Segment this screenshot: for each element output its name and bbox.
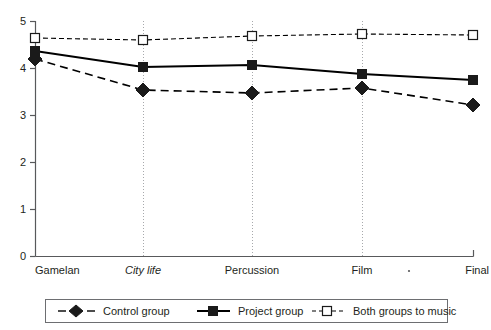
x-category-label-final: Final xyxy=(465,264,489,276)
datapoint-both-groups-percussion xyxy=(248,32,257,41)
datapoint-both-groups-final xyxy=(469,31,478,40)
legend-marker-filled-square xyxy=(209,307,218,316)
x-category-label-film: Film xyxy=(352,264,373,276)
x-category-labels: Gamelan City life Percussion Film Final xyxy=(35,264,489,276)
series-project-group xyxy=(31,47,478,85)
datapoint-project-percussion xyxy=(248,61,257,70)
y-tick-label-3: 3 xyxy=(20,109,26,121)
chart-legend: Control group Project group Both groups … xyxy=(46,300,457,323)
datapoint-both-groups-gamelan xyxy=(31,34,40,43)
datapoint-project-city-life xyxy=(139,63,148,72)
series-both-groups-to-music xyxy=(31,30,478,45)
legend-label-control-group: Control group xyxy=(103,305,170,317)
datapoint-control-city-life xyxy=(136,83,150,97)
x-category-label-city-life: City life xyxy=(125,264,161,276)
y-tick-label-4: 4 xyxy=(20,62,26,74)
y-tick-label-5: 5 xyxy=(20,15,26,27)
stray-speck xyxy=(408,270,410,272)
datapoint-both-groups-city-life xyxy=(139,36,148,45)
datapoint-control-final xyxy=(466,98,480,112)
datapoint-project-final xyxy=(469,76,478,85)
y-tick-label-1: 1 xyxy=(20,203,26,215)
legend-label-both-groups-to-music: Both groups to music xyxy=(353,305,457,317)
y-tick-label-2: 2 xyxy=(20,156,26,168)
datapoint-both-groups-film xyxy=(358,30,367,39)
gridlines xyxy=(144,21,363,256)
datapoint-control-film xyxy=(355,81,369,95)
legend-item-control-group: Control group xyxy=(58,305,170,317)
y-tick-label-0: 0 xyxy=(20,250,26,262)
legend-label-project-group: Project group xyxy=(238,305,303,317)
chart-canvas: 5 4 3 2 1 0 xyxy=(0,0,491,330)
datapoint-control-percussion xyxy=(245,86,259,100)
x-category-label-gamelan: Gamelan xyxy=(35,264,80,276)
x-axis xyxy=(36,250,474,257)
datapoint-project-film xyxy=(358,70,367,79)
legend-item-project-group: Project group xyxy=(197,305,303,317)
legend-marker-open-square xyxy=(323,307,332,316)
line-chart-figure: 5 4 3 2 1 0 xyxy=(0,0,491,330)
x-category-label-percussion: Percussion xyxy=(225,264,279,276)
